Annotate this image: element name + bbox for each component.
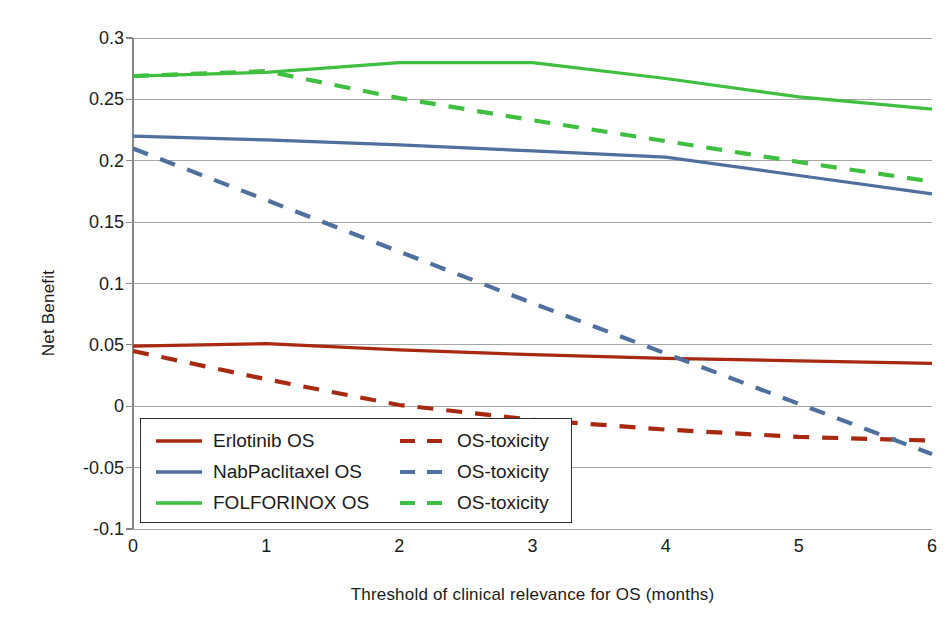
- legend-solid-line-icon: [155, 465, 203, 479]
- legend-label-dashed: OS-toxicity: [457, 492, 549, 514]
- series-line-nabpaclitaxel-os: [133, 136, 932, 194]
- legend-row: Erlotinib OSOS-toxicity: [141, 425, 571, 456]
- legend-dashed-line-icon: [399, 465, 447, 479]
- legend-label-dashed: OS-toxicity: [457, 430, 549, 452]
- x-axis-tick-label: 5: [794, 536, 804, 557]
- legend: Erlotinib OSOS-toxicityNabPaclitaxel OSO…: [140, 418, 572, 523]
- x-axis-tick-label: 3: [527, 536, 537, 557]
- legend-entry-solid: NabPaclitaxel OS: [155, 461, 399, 483]
- legend-label-dashed: OS-toxicity: [457, 461, 549, 483]
- legend-row: NabPaclitaxel OSOS-toxicity: [141, 456, 571, 487]
- legend-entry-solid: FOLFORINOX OS: [155, 492, 399, 514]
- legend-solid-line-icon: [155, 496, 203, 510]
- series-line-folforinox-toxicity: [133, 71, 932, 181]
- x-axis-tick-label: 2: [394, 536, 404, 557]
- legend-row: FOLFORINOX OSOS-toxicity: [141, 487, 571, 518]
- x-axis-tick-label: 4: [661, 536, 671, 557]
- series-line-nabpaclitaxel-toxicity: [133, 148, 932, 454]
- legend-solid-line-icon: [155, 434, 203, 448]
- net-benefit-chart: Net Benefit 0.30.250.20.150.10.050-0.05-…: [0, 0, 950, 625]
- x-axis-tick-label: 6: [927, 536, 937, 557]
- legend-label-solid: NabPaclitaxel OS: [213, 461, 399, 483]
- legend-entry-dashed: OS-toxicity: [399, 430, 549, 452]
- legend-label-solid: FOLFORINOX OS: [213, 492, 399, 514]
- legend-dashed-line-icon: [399, 496, 447, 510]
- series-line-erlotinib-os: [133, 344, 932, 364]
- plot-area: [0, 0, 950, 625]
- x-axis-title: Threshold of clinical relevance for OS (…: [133, 585, 932, 605]
- legend-entry-dashed: OS-toxicity: [399, 492, 549, 514]
- x-axis-tick-label: 1: [261, 536, 271, 557]
- legend-label-solid: Erlotinib OS: [213, 430, 399, 452]
- legend-entry-dashed: OS-toxicity: [399, 461, 549, 483]
- x-axis-tick-label: 0: [128, 536, 138, 557]
- legend-entry-solid: Erlotinib OS: [155, 430, 399, 452]
- legend-dashed-line-icon: [399, 434, 447, 448]
